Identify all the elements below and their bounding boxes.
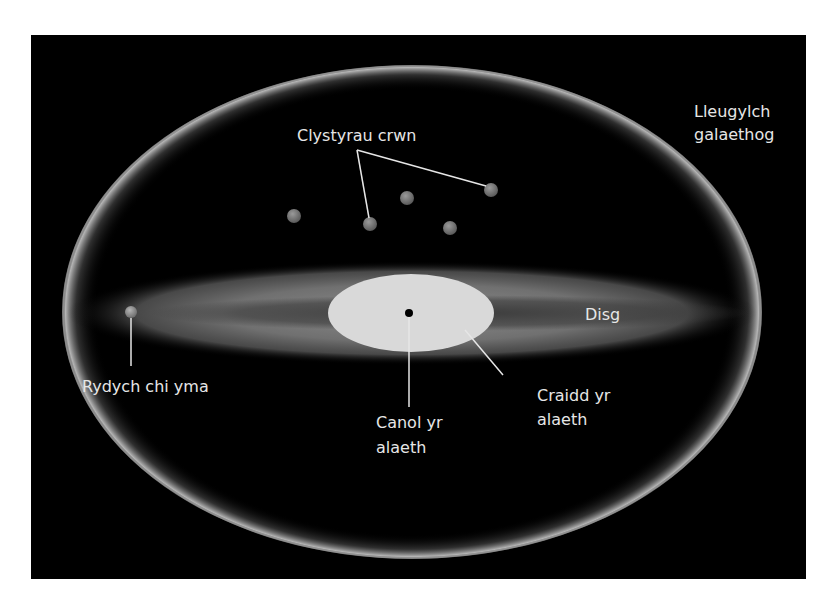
you-are-here-marker xyxy=(125,306,137,318)
core-label-line1: Craidd yr xyxy=(537,386,611,405)
disc-label: Disg xyxy=(585,305,620,324)
globular-cluster xyxy=(400,191,414,205)
core-label-line2: alaeth xyxy=(537,410,587,429)
galactic-centre-dot xyxy=(405,309,413,317)
globular-cluster xyxy=(484,183,498,197)
centre-label-line2: alaeth xyxy=(376,438,426,457)
galaxy-diagram: Lleugylch galaethog Clystyrau crwn Disg … xyxy=(0,0,833,598)
globular-cluster xyxy=(363,217,377,231)
centre-label-line1: Canol yr xyxy=(376,413,443,432)
halo-label-line1: Lleugylch xyxy=(694,102,770,121)
globular-cluster xyxy=(287,209,301,223)
you-are-here-label: Rydych chi yma xyxy=(82,377,209,396)
globular-cluster xyxy=(443,221,457,235)
halo-label-line2: galaethog xyxy=(694,125,774,144)
clusters-label: Clystyrau crwn xyxy=(297,126,416,145)
